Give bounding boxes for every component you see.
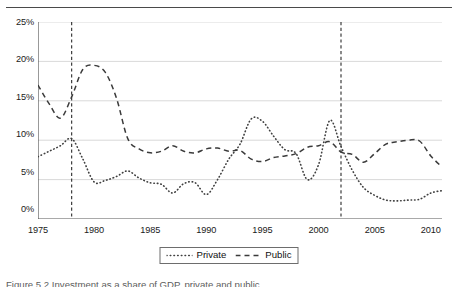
x-tick-label: 1975	[28, 226, 48, 235]
legend-label-private: Private	[197, 250, 227, 260]
gridlines	[38, 22, 442, 180]
series-line-public	[38, 65, 442, 167]
x-tick-label: 1995	[252, 226, 272, 235]
x-tick-label: 1990	[196, 226, 216, 235]
x-tick-label: 1985	[140, 226, 160, 235]
chart-svg	[38, 22, 442, 219]
x-tick-label: 2000	[309, 226, 329, 235]
x-axis-labels: 1975 1980 1985 1990 1995 2000 2005 2010	[38, 226, 442, 240]
y-tick-label: 20%	[16, 55, 34, 64]
chart-legend: Private Public	[160, 247, 299, 264]
figure-container: 25% 20% 15% 10% 5% 0% 1975 1980 1985 199…	[0, 0, 458, 287]
y-tick-label: 10%	[16, 130, 34, 139]
series-line-private	[38, 117, 442, 201]
y-tick-label: 25%	[16, 18, 34, 27]
y-axis-labels: 25% 20% 15% 10% 5% 0%	[0, 22, 34, 219]
plot-area	[38, 22, 442, 219]
figure-caption: Figure 5.2 Investment as a share of GDP,…	[6, 279, 446, 287]
x-tick-label: 2010	[421, 226, 441, 235]
data-series	[38, 65, 442, 201]
dotted-line-swatch	[167, 252, 193, 259]
reference-lines	[72, 22, 341, 219]
top-divider-rule	[6, 7, 452, 8]
legend-entry-public: Public	[235, 250, 291, 260]
legend-label-public: Public	[265, 250, 291, 260]
y-tick-label: 15%	[16, 93, 34, 102]
legend-entry-private: Private	[167, 250, 227, 260]
y-tick-label: 0%	[21, 205, 34, 214]
x-tick-label: 2005	[365, 226, 385, 235]
y-tick-label: 5%	[21, 168, 34, 177]
dashed-line-swatch	[235, 252, 261, 259]
x-tick-label: 1980	[84, 226, 104, 235]
